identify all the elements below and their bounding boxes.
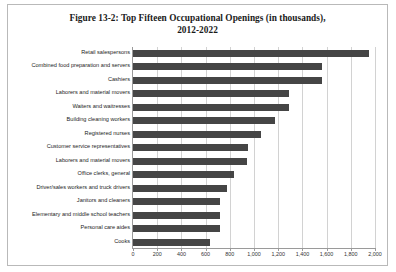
x-axis-tick-label: 0 <box>132 251 135 257</box>
chart-row: Registered nurses <box>133 128 375 141</box>
bar <box>133 131 261 138</box>
chart-row: Cashiers <box>133 74 375 87</box>
y-axis-category-label: Office clerks, general <box>78 169 130 178</box>
x-axis-tick-label: 600 <box>201 251 210 257</box>
y-axis-category-label: Driver/sales workers and truck drivers <box>36 183 130 192</box>
chart-row: Waiters and waitresses <box>133 101 375 114</box>
bar <box>133 104 289 111</box>
chart-row: Cooks <box>133 236 375 249</box>
y-axis-category-label: Personal care aides <box>81 223 130 232</box>
y-axis-category-label: Retail salespersons <box>81 48 130 57</box>
chart-row: Janitors and cleaners <box>133 195 375 208</box>
y-axis-category-label: Customer service representatives <box>47 142 130 151</box>
y-axis-category-label: Registered nurses <box>85 129 130 138</box>
y-axis-category-label: Cooks <box>114 237 130 246</box>
bar <box>133 144 248 151</box>
bar <box>133 239 210 246</box>
x-axis-tick-label: 1,800 <box>344 251 358 257</box>
bar <box>133 185 227 192</box>
gridline <box>375 47 376 248</box>
bar <box>133 117 275 124</box>
y-axis-category-label: Laborers and material movers <box>56 156 130 165</box>
x-axis-tick-label: 800 <box>225 251 234 257</box>
chart-row: Laborers and material movers <box>133 87 375 100</box>
y-axis-category-label: Cashiers <box>108 75 130 84</box>
bar <box>133 212 220 219</box>
chart-row: Office clerks, general <box>133 168 375 181</box>
chart-row: Retail salespersons <box>133 47 375 60</box>
x-axis-tick-label: 1,200 <box>271 251 285 257</box>
chart-row: Building cleaning workers <box>133 114 375 127</box>
y-axis-category-label: Laborers and material movers <box>56 88 130 97</box>
y-axis-category-label: Janitors and cleaners <box>77 196 130 205</box>
bar <box>133 158 247 165</box>
chart-row: Laborers and material movers <box>133 155 375 168</box>
bar <box>133 225 220 232</box>
bar <box>133 90 289 97</box>
x-axis-tick-label: 1,600 <box>320 251 334 257</box>
bar <box>133 50 369 57</box>
plot-area: 02004006008001,0001,2001,4001,6001,8002,… <box>132 47 375 249</box>
x-axis-tick-label: 1,000 <box>247 251 261 257</box>
bar <box>133 171 234 178</box>
chart-row: Combined food preparation and servers <box>133 60 375 73</box>
x-axis-tick-label: 400 <box>177 251 186 257</box>
chart-row: Elementary and middle school teachers <box>133 209 375 222</box>
chart-row: Personal care aides <box>133 222 375 235</box>
page-title: Figure 13-2: Top Fifteen Occupational Op… <box>8 13 387 36</box>
chart-title-line1: Figure 13-2: Top Fifteen Occupational Op… <box>69 13 325 23</box>
chart-row: Driver/sales workers and truck drivers <box>133 182 375 195</box>
y-axis-category-label: Elementary and middle school teachers <box>32 210 130 219</box>
y-axis-category-label: Combined food preparation and servers <box>31 61 130 70</box>
figure-container: Figure 13-2: Top Fifteen Occupational Op… <box>7 4 388 266</box>
x-axis-tick-label: 200 <box>153 251 162 257</box>
y-axis-category-label: Waiters and waitresses <box>72 102 130 111</box>
bar <box>133 77 322 84</box>
chart-row: Customer service representatives <box>133 141 375 154</box>
bar <box>133 63 322 70</box>
bar <box>133 198 220 205</box>
x-axis-tick-label: 2,000 <box>368 251 382 257</box>
x-axis-tick-label: 1,400 <box>296 251 310 257</box>
chart-title-line2: 2012-2022 <box>8 25 387 37</box>
y-axis-category-label: Building cleaning workers <box>67 115 130 124</box>
